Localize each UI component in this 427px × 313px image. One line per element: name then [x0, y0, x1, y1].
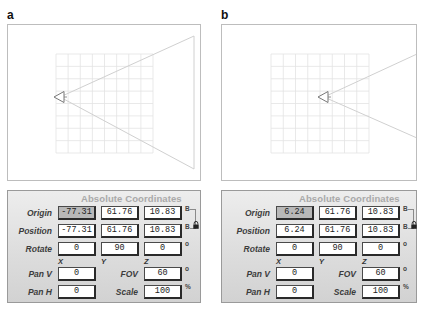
rotate-x-field[interactable]: 0	[58, 242, 96, 256]
scene-canvas-b[interactable]	[222, 25, 417, 181]
rotate-x-field[interactable]: 0	[276, 242, 314, 256]
origin-z-field[interactable]: 10.83	[362, 206, 400, 220]
rotate-unit: o	[185, 240, 189, 247]
figure-label-b: b	[221, 8, 228, 22]
floor-grid	[56, 54, 153, 153]
position-unit: B	[403, 223, 408, 230]
origin-y-field[interactable]: 61.76	[319, 206, 357, 220]
rotate-label: Rotate	[244, 244, 270, 254]
scale-field[interactable]: 100	[362, 285, 400, 299]
rotate-z-field[interactable]: 0	[144, 242, 182, 256]
scale-label: Scale	[116, 287, 138, 297]
figure-label-a: a	[7, 8, 14, 22]
coordinates-panel-a: Absolute Coordinates Origin -77.31 61.76…	[7, 190, 201, 303]
coordinates-panel-b: Absolute Coordinates Origin 6.24 61.76 1…	[221, 190, 417, 303]
position-x-field[interactable]: -77.31	[58, 224, 96, 238]
fov-label: FOV	[121, 269, 138, 279]
fov-field[interactable]: 60	[144, 267, 182, 281]
origin-z-field[interactable]: 10.83	[144, 206, 182, 220]
lock-icon[interactable]	[411, 215, 417, 233]
pan-v-label: Pan V	[246, 269, 270, 279]
floor-grid	[271, 54, 369, 153]
axis-z-label: Z	[144, 257, 149, 266]
fov-unit: o	[185, 265, 189, 272]
pan-h-label: Pan H	[28, 287, 52, 297]
lock-icon[interactable]	[193, 215, 199, 233]
origin-label: Origin	[27, 208, 52, 218]
origin-y-field[interactable]: 61.76	[101, 206, 139, 220]
position-x-field[interactable]: 6.24	[276, 224, 314, 238]
rotate-y-field[interactable]: 90	[319, 242, 357, 256]
origin-unit: B	[403, 205, 408, 212]
position-label: Position	[236, 226, 270, 236]
origin-x-field[interactable]: 6.24	[276, 206, 314, 220]
axis-x-label: X	[276, 257, 281, 266]
scene-canvas-a[interactable]	[8, 25, 201, 181]
position-unit: B	[185, 223, 190, 230]
panel-title: Absolute Coordinates	[299, 193, 400, 204]
origin-unit: B	[185, 205, 190, 212]
panel-title: Absolute Coordinates	[81, 193, 182, 204]
rotate-unit: o	[403, 240, 407, 247]
axis-x-label: X	[58, 257, 63, 266]
pan-h-field[interactable]: 0	[276, 285, 314, 299]
fov-field[interactable]: 60	[362, 267, 400, 281]
scale-field[interactable]: 100	[144, 285, 182, 299]
axis-y-label: Y	[101, 257, 106, 266]
camera-viewport-a[interactable]	[7, 24, 201, 181]
fov-unit: o	[403, 265, 407, 272]
rotate-label: Rotate	[26, 244, 52, 254]
scale-unit: %	[185, 283, 191, 290]
axis-y-label: Y	[319, 257, 324, 266]
position-z-field[interactable]: 10.83	[362, 224, 400, 238]
position-y-field[interactable]: 61.76	[101, 224, 139, 238]
fov-label: FOV	[339, 269, 356, 279]
pan-h-field[interactable]: 0	[58, 285, 96, 299]
pan-v-label: Pan V	[28, 269, 52, 279]
rotate-y-field[interactable]: 90	[101, 242, 139, 256]
scale-label: Scale	[334, 287, 356, 297]
position-z-field[interactable]: 10.83	[144, 224, 182, 238]
position-y-field[interactable]: 61.76	[319, 224, 357, 238]
axis-z-label: Z	[362, 257, 367, 266]
origin-label: Origin	[245, 208, 270, 218]
rotate-z-field[interactable]: 0	[362, 242, 400, 256]
pan-h-label: Pan H	[246, 287, 270, 297]
pan-v-field[interactable]: 0	[276, 267, 314, 281]
camera-viewport-b[interactable]	[221, 24, 417, 181]
origin-x-field[interactable]: -77.31	[58, 206, 96, 220]
pan-v-field[interactable]: 0	[58, 267, 96, 281]
scale-unit: %	[403, 283, 409, 290]
position-label: Position	[18, 226, 52, 236]
